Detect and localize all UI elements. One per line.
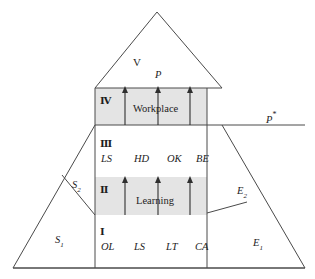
level-three-item-3: OK bbox=[167, 154, 182, 165]
level-one-item-2: LS bbox=[134, 242, 145, 253]
level-four-title: Workplace bbox=[133, 104, 178, 115]
label-p-star: P* bbox=[266, 110, 276, 126]
level-four-numeral: Ⅳ bbox=[100, 96, 112, 106]
performance-label-p: P bbox=[155, 70, 161, 81]
level-two-title: Learning bbox=[136, 196, 174, 207]
level-two-numeral: Ⅱ bbox=[100, 185, 109, 195]
label-e2: E2 bbox=[237, 181, 247, 200]
level-one-item-3: LT bbox=[166, 242, 177, 253]
level-one-numeral: Ⅰ bbox=[100, 227, 105, 237]
label-e1: E1 bbox=[253, 233, 263, 252]
diagram-canvas bbox=[0, 0, 315, 279]
label-s1: S1 bbox=[55, 230, 64, 249]
level-three-item-4: BE bbox=[196, 154, 209, 165]
level-three-item-1: LS bbox=[101, 154, 112, 165]
label-s2: S2 bbox=[72, 175, 81, 194]
pyramid-diagram: V P Ⅳ Workplace Ⅲ LS HD OK BE Ⅱ Learning… bbox=[0, 0, 315, 279]
level-three-numeral: Ⅲ bbox=[100, 139, 112, 149]
level-five-numeral: V bbox=[133, 57, 141, 68]
right-wedge-divider bbox=[207, 202, 247, 213]
level-one-item-4: CA bbox=[195, 242, 208, 253]
level-three-item-2: HD bbox=[134, 154, 149, 165]
level-one-item-1: OL bbox=[101, 242, 114, 253]
